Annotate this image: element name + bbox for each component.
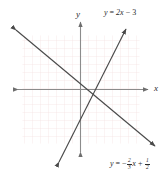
y-axis-label: y (76, 9, 80, 19)
graph-figure: y x y = 2x − 3 y = −23x + 12 (0, 0, 167, 173)
line2-intercept-fraction: 12 (145, 158, 150, 170)
equation-label-line1: y = 2x − 3 (104, 8, 136, 17)
graph-canvas (0, 0, 167, 173)
x-axis-label: x (154, 83, 158, 93)
equation-label-line2: y = −23x + 12 (110, 158, 150, 170)
line1-intercept: 3 (132, 8, 136, 17)
line1-slope-term: 2x (116, 8, 124, 17)
line2-intercept-denominator: 2 (145, 164, 150, 171)
line2-negative-sign: − (122, 159, 127, 168)
